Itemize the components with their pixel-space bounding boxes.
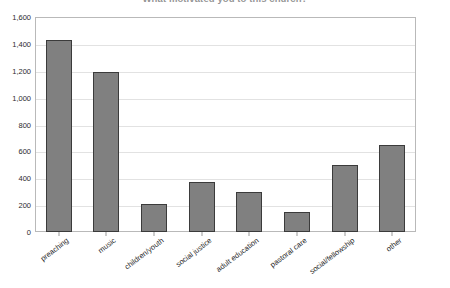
y-axis-tick-label: 200 xyxy=(0,201,31,210)
bar xyxy=(236,192,262,232)
bar-slot xyxy=(321,17,369,232)
bar xyxy=(332,165,358,232)
x-axis-category-label: adult education xyxy=(215,236,261,274)
y-axis-tick-label: 1,200 xyxy=(0,66,31,75)
x-axis-category-label: preaching xyxy=(38,236,70,263)
x-axis-category-label: children/youth xyxy=(123,236,166,271)
x-axis-category-label: pastoral care xyxy=(268,236,308,269)
bar xyxy=(93,72,119,232)
bar xyxy=(284,212,310,232)
x-axis: preachingmusicchildren/youthsocial justi… xyxy=(35,236,416,288)
y-axis-tick-label: 1,000 xyxy=(0,93,31,102)
bar xyxy=(189,182,215,232)
bar-slot xyxy=(226,17,274,232)
y-axis-tick-label: 1,600 xyxy=(0,13,31,22)
chart-title: What motivated you to this church? xyxy=(0,0,450,4)
bar-slot xyxy=(368,17,416,232)
x-axis-category-label: music xyxy=(97,236,118,255)
y-axis-tick-label: 800 xyxy=(0,120,31,129)
bars-layer xyxy=(35,17,416,232)
x-axis-category-label: social/fellowship xyxy=(307,236,356,276)
bar-slot xyxy=(83,17,131,232)
y-axis: 02004006008001,0001,2001,4001,600 xyxy=(0,17,31,232)
bar-slot xyxy=(178,17,226,232)
x-axis-category-label: other xyxy=(385,236,404,253)
y-axis-tick-label: 1,400 xyxy=(0,39,31,48)
bar-chart-figure: What motivated you to this church? 02004… xyxy=(0,0,450,288)
bar xyxy=(46,40,72,232)
bar xyxy=(379,145,405,232)
x-axis-category-label: social justice xyxy=(174,236,213,269)
bar-slot xyxy=(273,17,321,232)
y-axis-tick-label: 0 xyxy=(0,228,31,237)
y-axis-tick-label: 600 xyxy=(0,147,31,156)
bar-slot xyxy=(130,17,178,232)
bar xyxy=(141,204,167,232)
y-axis-tick-label: 400 xyxy=(0,174,31,183)
bar-slot xyxy=(35,17,83,232)
